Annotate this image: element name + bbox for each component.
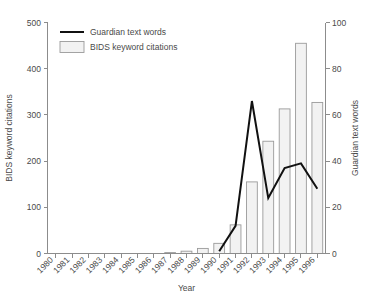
- legend-label-guardian-text-words: Guardian text words: [90, 27, 166, 37]
- y-tick-label-left-500: 500: [27, 18, 41, 28]
- x-tick-label-1986: 1986: [133, 255, 154, 276]
- y-tick-label-left-0: 0: [36, 249, 41, 259]
- x-tick-label-1981: 1981: [51, 255, 72, 276]
- y-axis-right-title: Guardian text words: [350, 100, 360, 176]
- x-tick-label-1990: 1990: [198, 255, 219, 276]
- y-tick-label-right-100: 100: [332, 18, 346, 28]
- x-tick-label-1983: 1983: [84, 255, 105, 276]
- bar-1989: [197, 248, 208, 253]
- bar-1994: [279, 109, 290, 254]
- bar-1992: [247, 182, 258, 254]
- y-axis-left-title: BIDS keyword citations: [4, 94, 14, 181]
- y-tick-label-left-400: 400: [27, 64, 41, 74]
- legend-group: Guardian text wordsBIDS keyword citation…: [60, 27, 177, 53]
- y-tick-label-left-100: 100: [27, 202, 41, 212]
- bars-group: [165, 43, 323, 253]
- x-tick-label-1992: 1992: [231, 255, 252, 276]
- y-tick-label-right-80: 80: [332, 64, 342, 74]
- x-tick-label-1994: 1994: [264, 255, 285, 276]
- x-tick-label-1985: 1985: [116, 255, 137, 276]
- x-tick-label-1996: 1996: [296, 255, 317, 276]
- bar-1995: [296, 43, 307, 253]
- y-tick-label-left-200: 200: [27, 156, 41, 166]
- legend-label-bids-keyword-citations: BIDS keyword citations: [90, 42, 177, 52]
- x-tick-label-1982: 1982: [67, 255, 88, 276]
- x-tick-label-1989: 1989: [182, 255, 203, 276]
- y-tick-label-right-40: 40: [332, 156, 342, 166]
- x-tick-label-1995: 1995: [280, 255, 301, 276]
- x-tick-label-1988: 1988: [165, 255, 186, 276]
- y-tick-label-right-0: 0: [332, 249, 337, 259]
- chart-figure: 0100200300400500020406080100198019811982…: [0, 0, 368, 300]
- x-tick-label-1993: 1993: [247, 255, 268, 276]
- y-tick-label-right-20: 20: [332, 202, 342, 212]
- y-tick-label-left-300: 300: [27, 110, 41, 120]
- legend-swatch-box-icon: [60, 42, 84, 53]
- chart-canvas: 0100200300400500020406080100198019811982…: [0, 0, 368, 300]
- x-tick-label-1991: 1991: [215, 255, 236, 276]
- bar-1996: [312, 102, 323, 253]
- bar-1991: [230, 225, 241, 254]
- y-tick-label-right-60: 60: [332, 110, 342, 120]
- x-axis-title: Year: [178, 283, 195, 293]
- x-tick-label-1987: 1987: [149, 255, 170, 276]
- x-tick-label-1984: 1984: [100, 255, 121, 276]
